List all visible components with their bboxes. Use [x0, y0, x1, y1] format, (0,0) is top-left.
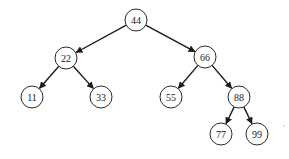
tree-node-99: 99: [246, 123, 268, 145]
node-label: 33: [96, 92, 106, 103]
tree-node-55: 55: [160, 86, 182, 108]
edge-44-to-66: [146, 25, 195, 51]
nodes-layer: 442266113355887799: [21, 9, 268, 145]
tree-node-22: 22: [55, 47, 77, 69]
edge-22-to-11: [40, 66, 59, 88]
tree-node-44: 44: [125, 9, 147, 31]
tree-node-77: 77: [210, 123, 232, 145]
node-label: 88: [234, 92, 244, 103]
tree-node-88: 88: [228, 86, 250, 108]
tree-node-33: 33: [90, 86, 112, 108]
node-label: 77: [216, 129, 226, 140]
edge-22-to-33: [73, 66, 93, 88]
node-label: 55: [166, 92, 176, 103]
edges-layer: [40, 25, 252, 124]
edge-66-to-88: [212, 65, 232, 88]
node-label: 11: [27, 92, 37, 103]
tree-node-11: 11: [21, 86, 43, 108]
node-label: 66: [200, 52, 210, 63]
tree-node-66: 66: [194, 46, 216, 68]
stray-dot: [283, 125, 285, 127]
node-label: 99: [252, 129, 262, 140]
edge-88-to-77: [226, 107, 234, 124]
edge-88-to-99: [244, 107, 252, 124]
tree-diagram: 442266113355887799: [0, 0, 289, 159]
edge-44-to-22: [76, 25, 126, 52]
node-label: 44: [131, 15, 141, 26]
edge-66-to-55: [178, 65, 198, 88]
node-label: 22: [61, 53, 71, 64]
